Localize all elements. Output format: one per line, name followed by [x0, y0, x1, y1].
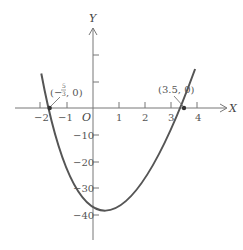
- y-axis-label: Y: [89, 12, 98, 25]
- y-tick-label: −10: [73, 130, 94, 141]
- origin-label: O: [82, 111, 91, 124]
- root-leader-right: [174, 96, 183, 106]
- y-tick-label: −20: [73, 157, 94, 168]
- x-tick-label: −2: [34, 112, 49, 123]
- svg-text:(−: (−: [50, 87, 62, 98]
- parabola-graph: X Y −2 −1 1 2 3 4 O −10 −20 −30 −40 (− 5…: [0, 0, 243, 250]
- root-point-left: [48, 106, 52, 110]
- x-tick-label: −1: [58, 112, 73, 123]
- root-point-right: [182, 106, 186, 110]
- root-label-left: (− 5 3 , 0): [50, 82, 83, 98]
- x-axis-label: X: [228, 102, 238, 115]
- x-tick-label: 4: [195, 112, 201, 123]
- root-leader-left: [51, 97, 60, 106]
- x-tick-label: 2: [142, 112, 148, 123]
- root-label-right: (3.5, 0): [158, 84, 195, 95]
- y-tick-label: −40: [73, 210, 94, 221]
- svg-text:, 0): , 0): [66, 87, 83, 98]
- x-tick-label: 1: [116, 112, 122, 123]
- x-ticks: [40, 102, 197, 108]
